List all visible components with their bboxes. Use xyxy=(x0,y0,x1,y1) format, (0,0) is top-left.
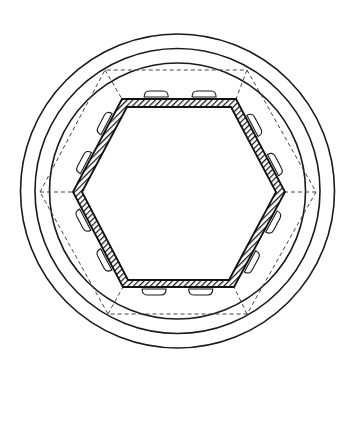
hexagon-ring-drawing xyxy=(0,0,358,425)
concentric-circles xyxy=(21,34,335,348)
diagram-canvas xyxy=(0,0,358,425)
tab xyxy=(144,91,168,97)
tab xyxy=(189,289,213,295)
hexagon-tabs xyxy=(74,91,284,295)
outer-circle xyxy=(21,34,335,348)
tab xyxy=(142,289,166,295)
radial-line xyxy=(236,70,247,99)
tab xyxy=(192,91,216,97)
